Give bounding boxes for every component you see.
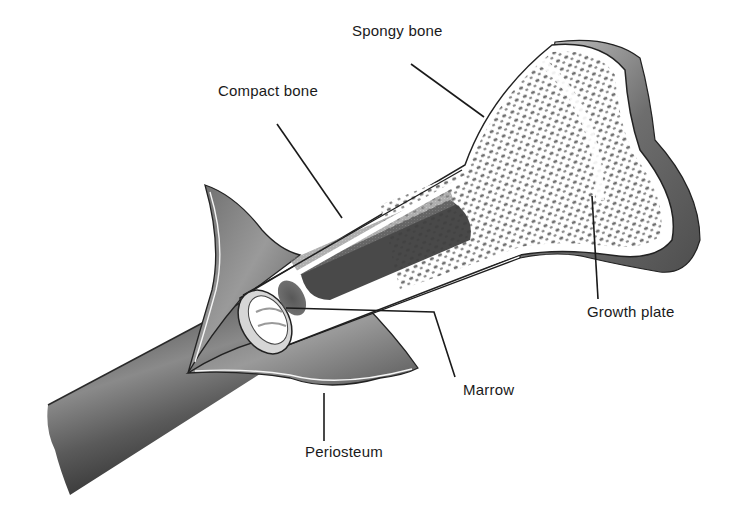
bone-diagram	[0, 0, 739, 519]
leader-line-spongy-bone	[411, 64, 484, 117]
label-growth-plate: Growth plate	[587, 303, 674, 320]
label-periosteum: Periosteum	[305, 443, 383, 460]
label-spongy-bone: Spongy bone	[352, 22, 443, 39]
leader-line-compact-bone	[277, 124, 342, 218]
label-compact-bone: Compact bone	[218, 82, 318, 99]
label-marrow: Marrow	[463, 381, 514, 398]
